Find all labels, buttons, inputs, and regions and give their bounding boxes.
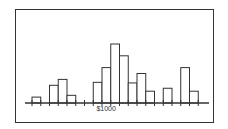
histogram-bar bbox=[32, 97, 41, 103]
histogram-bar bbox=[102, 68, 111, 103]
histogram-bar bbox=[163, 88, 172, 103]
histogram-bar bbox=[128, 83, 137, 103]
histogram-bar bbox=[67, 95, 76, 103]
histogram-bar bbox=[120, 56, 129, 103]
histogram-bar bbox=[93, 82, 102, 103]
x-axis-tick-label: $1000 bbox=[96, 105, 115, 112]
histogram-bar bbox=[58, 79, 67, 103]
histogram-bar bbox=[111, 44, 120, 103]
histogram-bar bbox=[137, 74, 146, 104]
histogram-bar bbox=[146, 91, 155, 103]
histogram-bar bbox=[50, 85, 59, 103]
histogram-bar bbox=[190, 91, 199, 103]
histogram-bar bbox=[181, 68, 190, 103]
histogram-bars bbox=[32, 44, 198, 103]
